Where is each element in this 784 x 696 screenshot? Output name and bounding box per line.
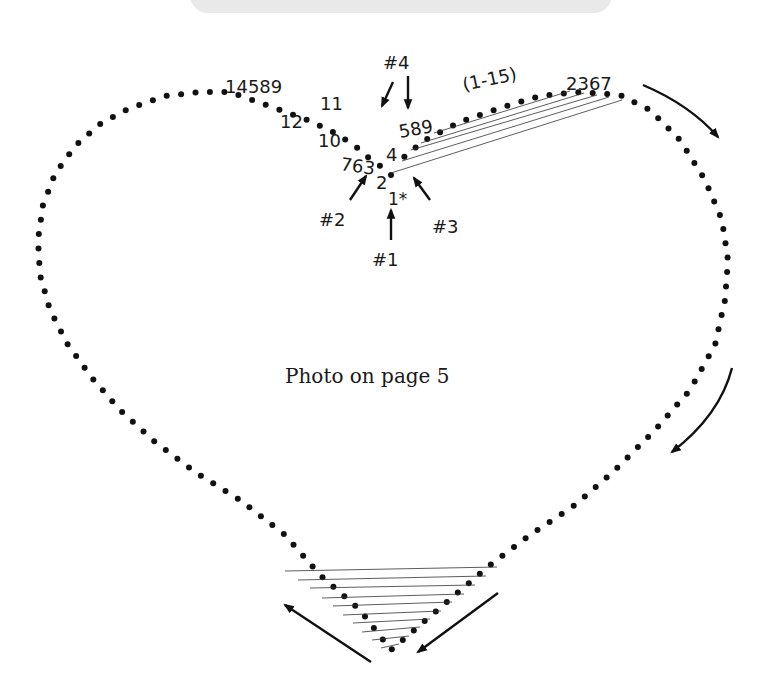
heart-dot — [499, 553, 505, 559]
heart-dot — [691, 160, 697, 166]
string-line — [285, 567, 497, 571]
heart-dot — [174, 456, 180, 462]
heart-string-art-diagram: 14589 11 12 10 763 2 1* 4 589 (1-15) 236… — [0, 0, 784, 696]
arrow-clockwise-right-side-icon — [672, 368, 732, 452]
heart-dot — [45, 189, 51, 195]
heart-dot — [123, 107, 129, 113]
heart-dot — [193, 90, 199, 96]
label-12: 12 — [280, 111, 303, 132]
heart-dot — [330, 584, 336, 590]
heart-dot — [164, 93, 170, 99]
arrow-up-left-icon — [414, 178, 430, 200]
heart-dot — [518, 99, 524, 105]
heart-dot — [36, 231, 42, 237]
arrow-clockwise-top-right-icon — [643, 85, 718, 137]
heart-dot — [317, 123, 323, 129]
heart-dot — [342, 137, 348, 143]
heart-dot — [723, 240, 729, 246]
arrow-up-left-bottom-icon — [285, 605, 371, 662]
heart-dot — [655, 115, 661, 121]
heart-dot — [619, 93, 625, 99]
heart-dot — [488, 561, 494, 567]
string-line — [353, 619, 430, 623]
heart-dot — [706, 353, 712, 359]
label-start-point: 1* — [388, 189, 407, 209]
heart-dot — [73, 353, 79, 359]
heart-dot — [75, 140, 81, 146]
heart-dot — [100, 387, 106, 393]
label-right-top-sequence: 2367 — [566, 73, 612, 94]
heart-dot — [36, 260, 42, 266]
heart-dot — [716, 326, 722, 332]
heart-dot — [300, 553, 306, 559]
heart-dot — [593, 484, 599, 490]
label-763: 763 — [339, 153, 376, 179]
heart-dot — [684, 148, 690, 154]
heart-dot — [645, 434, 651, 440]
heart-dot — [304, 117, 310, 123]
heart-dot — [511, 544, 517, 550]
heart-dot — [699, 366, 705, 372]
label-2: 2 — [376, 172, 387, 193]
heart-dot — [354, 145, 360, 151]
heart-dot — [692, 379, 698, 385]
heart-dot — [684, 391, 690, 397]
heart-dot — [717, 212, 723, 218]
heart-dot — [665, 413, 671, 419]
heart-dot — [341, 593, 347, 599]
heart-dot — [724, 269, 730, 275]
heart-dot — [411, 627, 417, 633]
heart-dot — [547, 519, 553, 525]
arrow-up-right-icon — [350, 176, 366, 200]
heart-dot — [504, 103, 510, 109]
heart-dot — [65, 341, 71, 347]
heart-dot — [666, 126, 672, 132]
heart-dot — [58, 163, 64, 169]
heart-dot — [51, 316, 57, 322]
marker-2-label: #2 — [319, 209, 346, 230]
heart-dot — [535, 527, 541, 533]
heart-dot — [119, 409, 125, 415]
heart-dot — [66, 151, 72, 157]
heart-dot — [644, 106, 650, 112]
heart-dot — [263, 102, 269, 108]
heart-dot — [676, 136, 682, 142]
heart-dot — [310, 564, 316, 570]
heart-dot — [150, 97, 156, 103]
marker-1-label: #1 — [372, 249, 399, 270]
label-range: (1-15) — [460, 63, 518, 95]
heart-dot — [720, 226, 726, 232]
label-left-top-sequence: 14589 — [225, 76, 282, 97]
heart-dot — [625, 454, 631, 460]
heart-dot — [604, 474, 610, 480]
heart-dot — [699, 172, 705, 178]
heart-dot — [141, 429, 147, 435]
photo-reference-caption: Photo on page 5 — [285, 364, 450, 388]
heart-dot — [258, 513, 264, 519]
heart-dot — [136, 102, 142, 108]
heart-dot — [90, 376, 96, 382]
heart-dot — [186, 465, 192, 471]
heart-dot — [491, 107, 497, 113]
heart-dot — [50, 175, 56, 181]
heart-dot — [614, 465, 620, 471]
heart-dot — [38, 217, 44, 223]
string-line — [343, 611, 441, 615]
heart-dot — [723, 284, 729, 290]
marker-3-label: #3 — [432, 216, 459, 237]
heart-dot — [269, 522, 275, 528]
heart-dot — [109, 398, 115, 404]
heart-dot — [532, 95, 538, 101]
arrow-down-left-icon — [382, 82, 393, 106]
label-10: 10 — [318, 130, 341, 151]
heart-dot — [463, 117, 469, 123]
label-4: 4 — [386, 144, 397, 165]
heart-dot — [110, 114, 116, 120]
heart-dot — [635, 444, 641, 450]
string-line — [411, 95, 597, 150]
heart-dot — [42, 288, 48, 294]
heart-dot — [178, 91, 184, 97]
heart-dot — [235, 496, 241, 502]
heart-dot — [210, 480, 216, 486]
heart-dot — [281, 531, 287, 537]
